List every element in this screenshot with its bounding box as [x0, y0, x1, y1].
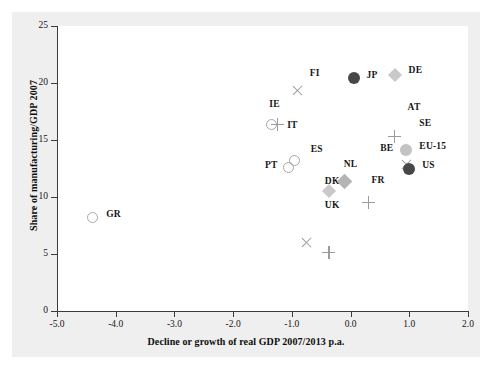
x-axis-tick-label: -3.0 [154, 319, 194, 329]
y-axis-tick [51, 26, 57, 27]
data-point-label: PT [265, 160, 278, 170]
x-axis-title: Decline or growth of real GDP 2007/2013 … [0, 336, 492, 347]
y-axis-tick [51, 254, 57, 255]
x-axis-tick [116, 311, 117, 317]
x-axis-line [57, 311, 469, 312]
data-point-marker [362, 196, 375, 209]
data-point-marker [348, 72, 360, 84]
y-axis-tick-label: 0 [30, 305, 48, 315]
y-axis-tick [51, 197, 57, 198]
data-point-label: JP [367, 70, 378, 80]
data-point-label: NL [344, 159, 358, 169]
x-axis-tick-label: 2.0 [448, 319, 488, 329]
data-point-label: GR [106, 209, 121, 219]
y-axis-tick [51, 83, 57, 84]
data-point-marker [291, 84, 304, 97]
data-point-label: IE [269, 99, 279, 109]
x-axis-tick [57, 311, 58, 317]
data-point-label: UK [325, 200, 340, 210]
x-axis-tick [468, 311, 469, 317]
scatter-plot-figure: 0510152025 -5.0-4.0-3.0-2.0-1.00.01.02.0… [0, 0, 492, 369]
data-point-label: FI [310, 68, 320, 78]
data-point-label: ES [311, 144, 323, 154]
y-axis-tick [51, 140, 57, 141]
data-point-marker [271, 118, 284, 131]
data-point-marker [300, 236, 313, 249]
data-point-marker [322, 246, 335, 259]
x-axis-tick [292, 311, 293, 317]
x-axis-tick-label: 1.0 [389, 319, 429, 329]
x-axis-tick [409, 311, 410, 317]
data-point-label: FR [372, 175, 385, 185]
data-point-label: BE [380, 143, 393, 153]
y-axis-tick-label: 25 [30, 20, 48, 30]
x-axis-tick [351, 311, 352, 317]
data-point-label: EU-15 [419, 141, 446, 151]
data-point-label: AT [408, 102, 421, 112]
x-axis-tick [233, 311, 234, 317]
data-point-label: SE [419, 118, 431, 128]
data-point-marker [403, 163, 415, 175]
x-axis-tick-label: -4.0 [96, 319, 136, 329]
y-axis-line [57, 26, 58, 312]
data-point-marker [87, 212, 98, 223]
data-point-label: US [422, 160, 435, 170]
data-point-marker [388, 130, 401, 143]
y-axis-title: Share of manufacturing/GDP 2007 [28, 46, 39, 266]
x-axis-tick-label: -2.0 [213, 319, 253, 329]
x-axis-tick-label: -5.0 [37, 319, 77, 329]
data-point-label: IT [287, 120, 297, 130]
x-axis-tick-label: 0.0 [331, 319, 371, 329]
x-axis-tick-label: -1.0 [272, 319, 312, 329]
data-point-label: DE [409, 65, 423, 75]
x-axis-tick [174, 311, 175, 317]
